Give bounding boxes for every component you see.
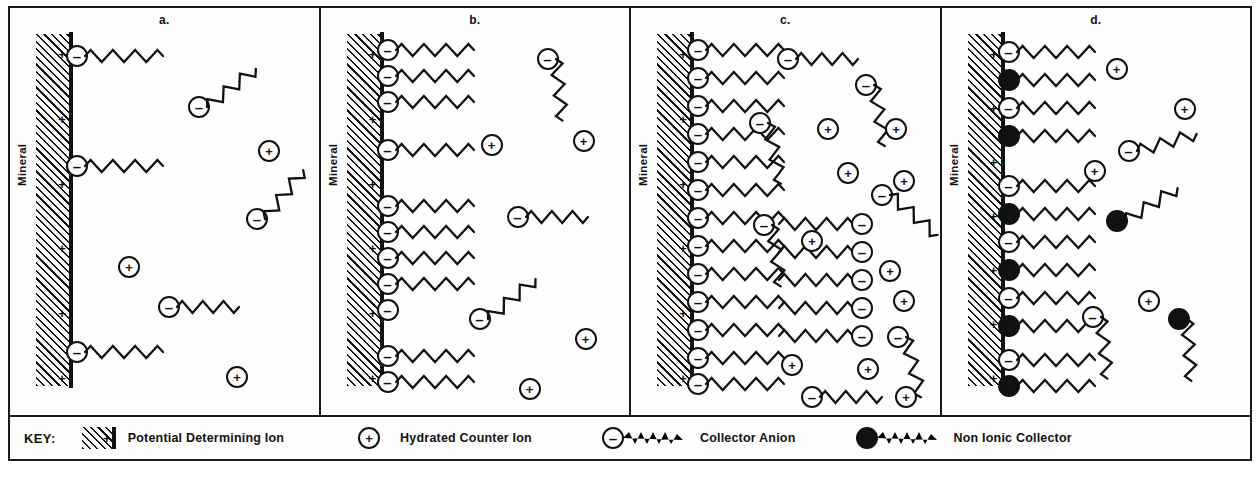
solution-collector-anion: – xyxy=(871,184,893,206)
hydrated-counter-ion-head: + xyxy=(801,230,823,252)
panels-row: a.Mineral++++++––––++––+b.Mineral++++++–… xyxy=(10,8,1250,417)
adsorbed-collector-anion: – xyxy=(377,195,399,217)
hydrocarbon-tail xyxy=(1017,42,1097,62)
panel-label: c. xyxy=(631,13,940,27)
surface-plus-charge: + xyxy=(54,307,70,320)
solution-collector-anion: – xyxy=(188,96,210,118)
solution-hydrated-counter-ion: + xyxy=(885,118,907,140)
adsorbed-collector-anion: – xyxy=(377,247,399,269)
adsorbed-collector-anion: – xyxy=(377,299,399,321)
solution-hydrated-counter-ion: + xyxy=(837,162,859,184)
solution-hydrated-counter-ion: + xyxy=(801,230,823,252)
hydrated-counter-ion-head: + xyxy=(837,162,859,184)
hydrated-counter-ion-head: + xyxy=(781,354,803,376)
hydrated-counter-ion-head: + xyxy=(817,118,839,140)
hydrocarbon-tail xyxy=(396,196,476,216)
adsorbed-non-ionic-collector xyxy=(998,203,1020,225)
key-item-collector-anion: – Collector Anion xyxy=(602,425,796,451)
adsorbed-collector-anion: – xyxy=(687,373,709,395)
adsorbed-collector-anion: – xyxy=(687,123,709,145)
key-label: Collector Anion xyxy=(700,431,796,445)
solution-hydrated-counter-ion: + xyxy=(575,328,597,350)
collector-anion-head: – xyxy=(377,299,399,321)
adsorbed-collector-anion: – xyxy=(377,39,399,61)
adsorbed-collector-anion: – xyxy=(687,319,709,341)
key-label: Potential Determining Ion xyxy=(128,431,284,445)
adsorbed-collector-anion: – xyxy=(687,263,709,285)
solution-collector-anion: – xyxy=(855,74,877,96)
hydrocarbon-tail xyxy=(706,292,786,312)
hydrocarbon-tail xyxy=(526,207,590,227)
hydrated-counter-ion-head: + xyxy=(118,256,140,278)
hydrocarbon-tail xyxy=(1091,316,1118,382)
key-label: Non Ionic Collector xyxy=(954,431,1072,445)
hydrated-counter-ion-head: + xyxy=(1084,160,1106,182)
filled-circle-tail-icon xyxy=(856,425,942,451)
adsorbed-collector-anion: – xyxy=(687,347,709,369)
hydrocarbon-tail xyxy=(257,162,312,225)
hydrocarbon-tail xyxy=(481,270,543,326)
adsorbed-collector-anion: – xyxy=(377,65,399,87)
solution-hydrated-counter-ion: + xyxy=(893,290,915,312)
hydrocarbon-tail xyxy=(779,326,855,346)
hydrocarbon-tail xyxy=(396,222,476,242)
mineral-label: Mineral xyxy=(637,144,649,186)
hydrated-counter-ion-head: + xyxy=(1106,58,1128,80)
collector-anion-head: – xyxy=(851,269,873,291)
hydrocarbon-tail xyxy=(706,348,786,368)
hydrated-counter-ion-head: + xyxy=(895,386,917,408)
counter-ion-head: + xyxy=(358,427,380,449)
adsorbed-collector-anion: – xyxy=(998,287,1020,309)
hydrocarbon-tail xyxy=(1017,126,1097,146)
collector-anion-head: – xyxy=(851,213,873,235)
hydrated-counter-ion-head: + xyxy=(575,328,597,350)
solution-collector-anion: – xyxy=(1118,140,1140,162)
adsorbed-collector-anion: – xyxy=(66,45,88,67)
hydrocarbon-tail xyxy=(396,274,476,294)
hydrated-counter-ion-head: + xyxy=(893,170,915,192)
solution-hydrated-counter-ion: + xyxy=(1084,160,1106,182)
hydrocarbon-tail xyxy=(706,68,786,88)
panel-label: a. xyxy=(10,13,319,27)
solution-hydrated-counter-ion: + xyxy=(893,170,915,192)
hydrocarbon-tail xyxy=(706,96,786,116)
solution-hydrated-counter-ion: + xyxy=(1174,98,1196,120)
hydrated-counter-ion-head: + xyxy=(857,358,879,380)
hydrocarbon-tail xyxy=(546,58,573,124)
hydrocarbon-tail xyxy=(85,156,165,176)
hydrocarbon-tail xyxy=(396,140,476,160)
hydrocarbon-tail xyxy=(1017,98,1097,118)
adsorbed-non-ionic-collector xyxy=(998,69,1020,91)
solution-collector-anion: – xyxy=(469,308,491,330)
key-row: KEY: + Potential Determining Ion + Hydra… xyxy=(10,415,1250,459)
solution-hydrated-counter-ion: + xyxy=(226,366,248,388)
hydrocarbon-tail xyxy=(1134,124,1201,161)
solution-collector-anion: – xyxy=(753,214,775,236)
solution-collector-anion: – xyxy=(801,386,823,408)
collector-anion-head: – xyxy=(851,297,873,319)
key-item-potential-determining-ion: + Potential Determining Ion xyxy=(82,427,284,449)
hydrocarbon-tail xyxy=(1177,318,1201,383)
adsorbed-collector-anion: – xyxy=(998,175,1020,197)
panel-a: a.Mineral++++++––––++––+ xyxy=(10,8,321,417)
adsorbed-collector-anion: – xyxy=(687,235,709,257)
panel-label: d. xyxy=(942,13,1251,27)
hydrocarbon-tail xyxy=(1017,204,1097,224)
solution-collector-anion: – xyxy=(887,326,909,348)
adsorbed-collector-anion: – xyxy=(998,231,1020,253)
adsorbed-collector-anion: – xyxy=(66,341,88,363)
second-layer-collector-anion: – xyxy=(779,297,877,319)
hydrocarbon-tail xyxy=(1017,350,1097,370)
adsorbed-collector-anion: – xyxy=(687,179,709,201)
surface-plus-charge: + xyxy=(365,113,381,126)
hydrocarbon-tail-icon xyxy=(877,430,941,450)
panel-c: c.Mineral++++++–––––––––––––––––––––+++–… xyxy=(631,8,942,417)
hydrated-counter-ion-head: + xyxy=(519,378,541,400)
open-circle-minus-tail-icon: – xyxy=(602,425,688,451)
second-layer-collector-anion: – xyxy=(779,325,877,347)
hydrocarbon-tail xyxy=(396,372,476,392)
hydrocarbon-tail xyxy=(779,298,855,318)
solution-hydrated-counter-ion: + xyxy=(1138,290,1160,312)
adsorbed-collector-anion: – xyxy=(687,291,709,313)
adsorbed-collector-anion: – xyxy=(687,95,709,117)
